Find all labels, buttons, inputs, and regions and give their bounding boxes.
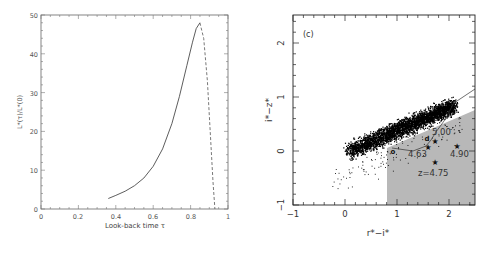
y-tick-label: 40 [30,51,38,59]
x-tick-label: 1 [394,209,399,219]
x-tick-label: 0 [342,209,347,219]
redshift-label-490: 4.90 [450,149,469,159]
x-tick-label: 0.2 [73,213,83,221]
track-marker-d: d [424,135,429,143]
left-ticks [41,15,228,209]
y-tick-label: 30 [30,90,38,98]
y-tick-label: 2 [276,40,286,45]
x-axis-title: Look-back time τ [105,222,165,230]
redshift-label-475: z=4.75 [418,168,449,178]
star-marker: ★ [431,137,438,146]
x-tick-label: 0.6 [148,213,158,221]
luminosity-curve-dashed [200,23,215,209]
luminosity-curve-solid [108,23,200,199]
x-axis-title: r*−i* [367,228,390,238]
y-tick-label: −1 [276,199,286,212]
star-marker: ★ [431,158,438,167]
redshift-label-463: 4.63 [408,149,427,159]
y-axis-title: L*(τ)/L*(0) [16,95,24,129]
x-tick-label: 1 [226,213,230,221]
figure: 0 10 20 30 40 50 0 0.2 0.4 0.6 0.8 1 Loo… [0,0,492,254]
x-tick-label: 0 [39,213,43,221]
x-tick-label: 0.8 [186,213,196,221]
y-axis-title: i*−z* [264,98,274,122]
y-tick-label: 10 [30,167,38,175]
right-chart: ★ ★ ★ ★ o d 5.00 4.63 4.90 z=4.75 (c) −1… [264,15,475,238]
redshift-label-500: 5.00 [432,127,451,137]
y-tick-label: 1 [276,94,286,99]
x-tick-label: −1 [287,209,300,219]
left-plot-frame [41,15,228,209]
y-tick-label: 20 [30,128,38,136]
track-marker-o: o [391,148,396,156]
x-tick-label: 2 [446,209,451,219]
y-tick-label: 0 [276,148,286,153]
y-tick-label: 50 [30,12,38,20]
y-tick-label: 0 [34,206,38,214]
x-tick-label: 0.4 [111,213,121,221]
left-chart: 0 10 20 30 40 50 0 0.2 0.4 0.6 0.8 1 Loo… [16,12,230,230]
panel-label: (c) [303,30,314,39]
